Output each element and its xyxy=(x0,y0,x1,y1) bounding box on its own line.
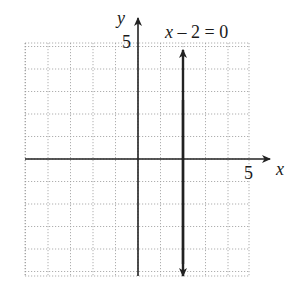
x-tick-label: 5 xyxy=(244,163,253,183)
equation-rest: – 2 = 0 xyxy=(173,22,228,42)
y-axis-label: y xyxy=(115,8,125,28)
equation-variable: x xyxy=(164,22,173,42)
equation-label: x – 2 = 0 xyxy=(164,22,228,42)
coordinate-plane: y 5 x 5 x – 2 = 0 xyxy=(0,0,292,284)
y-tick-label: 5 xyxy=(122,32,131,52)
x-axis-label: x xyxy=(275,159,284,179)
